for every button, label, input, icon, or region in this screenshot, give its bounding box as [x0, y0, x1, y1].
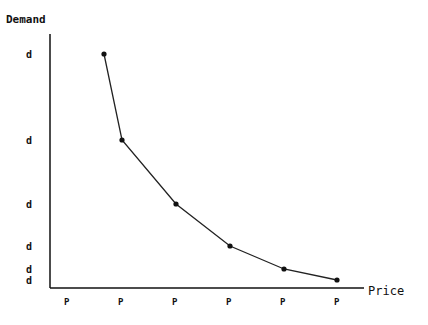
- y-tick-label: d: [26, 264, 32, 275]
- y-tick-label: d: [26, 241, 32, 252]
- y-tick-label: d: [26, 49, 32, 60]
- y-axis-title: Demand: [6, 13, 46, 26]
- y-tick-label: d: [26, 275, 32, 286]
- x-tick-label: P: [334, 297, 340, 307]
- x-tick-labels: PPPPPP: [64, 297, 340, 307]
- data-point: [173, 201, 178, 206]
- y-tick-label: d: [26, 199, 32, 210]
- data-point: [227, 243, 232, 248]
- x-tick-label: P: [226, 297, 232, 307]
- x-axis-title: Price: [368, 284, 404, 298]
- data-point-markers: [101, 51, 339, 282]
- x-tick-label: P: [118, 297, 124, 307]
- demand-curve-chart: Demand Price dddddd PPPPPP: [0, 0, 428, 325]
- data-point: [119, 137, 124, 142]
- data-point: [334, 277, 339, 282]
- data-point: [101, 51, 106, 56]
- x-tick-label: P: [172, 297, 178, 307]
- demand-line: [104, 54, 337, 280]
- x-tick-label: P: [280, 297, 286, 307]
- y-tick-label: d: [26, 135, 32, 146]
- x-tick-label: P: [64, 297, 70, 307]
- y-tick-labels: dddddd: [26, 49, 32, 286]
- data-point: [281, 266, 286, 271]
